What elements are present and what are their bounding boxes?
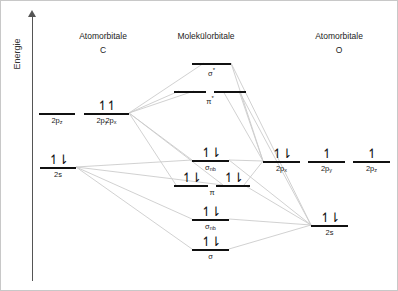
- column-header-oxygen: Atomorbitale O: [289, 30, 389, 56]
- level-bar: [311, 225, 348, 227]
- level-label: σ: [192, 252, 229, 261]
- level-bar: [192, 219, 229, 221]
- level-label: σ*: [192, 66, 231, 78]
- column-header-carbon: Atomorbitale C: [48, 30, 158, 56]
- column-header-oxygen-atom: O: [289, 44, 389, 56]
- column-header-mo-title: Molekülorbitale: [177, 31, 234, 41]
- electron-occupancy: ↿⇂: [192, 146, 229, 159]
- electron-occupancy: ↿⇂: [311, 211, 348, 224]
- level-label-sub: y: [329, 167, 332, 173]
- level-label: 2px: [263, 164, 300, 174]
- level-label-text: σ: [208, 252, 213, 261]
- level-bar: [353, 161, 390, 163]
- level-label-text: 2p: [105, 116, 113, 125]
- level-bar: [40, 167, 76, 169]
- level-label-sub: nb: [210, 166, 216, 172]
- electron-occupancy: ↿⇂: [263, 147, 300, 160]
- level-label: 2px: [93, 116, 129, 126]
- level-label: σnb: [192, 222, 229, 232]
- column-header-mo: Molekülorbitale: [151, 30, 261, 42]
- energy-axis-line: [32, 15, 33, 281]
- level-bar: [263, 161, 300, 163]
- level-bar: [308, 161, 345, 163]
- level-bar: [192, 160, 229, 162]
- level-label-sub: x: [114, 119, 117, 125]
- level-label: π: [192, 188, 232, 197]
- level-label-text: π: [209, 188, 214, 197]
- level-label: 2s: [311, 228, 348, 237]
- electron-occupancy: ↿⇂: [174, 171, 208, 184]
- mo-diagram-figure: Energie Atomorbitale C Molekülorbitale A…: [0, 0, 398, 291]
- level-bar: [174, 185, 208, 187]
- level-bar: [214, 91, 246, 93]
- energy-axis-label: Energie: [12, 24, 22, 84]
- level-bar: [174, 91, 206, 93]
- electron-occupancy: ↿: [93, 99, 129, 112]
- level-label-text: 2p: [51, 116, 59, 125]
- level-label-sup: *: [213, 67, 215, 73]
- level-label: 2pz: [39, 116, 75, 126]
- column-header-oxygen-title: Atomorbitale: [315, 31, 363, 41]
- level-bar: [192, 63, 231, 65]
- level-label-sub: z: [374, 167, 377, 173]
- level-label-sup: *: [211, 95, 213, 101]
- electron-occupancy: ↿: [308, 147, 345, 160]
- level-label-sub: x: [284, 167, 287, 173]
- level-label: 2s: [40, 170, 76, 179]
- level-label-text: 2s: [326, 228, 334, 237]
- electron-occupancy: ↿⇂: [192, 235, 229, 248]
- level-bar: [216, 185, 250, 187]
- level-label: 2pz: [353, 164, 390, 174]
- level-label: π*: [190, 94, 230, 106]
- electron-occupancy: ↿⇂: [192, 205, 229, 218]
- level-label-sub: nb: [210, 225, 216, 231]
- column-header-carbon-title: Atomorbitale: [79, 31, 127, 41]
- level-bar: [39, 113, 75, 115]
- level-label-sub: z: [60, 119, 63, 125]
- level-label-text: 2s: [54, 170, 62, 179]
- electron-occupancy: ↿⇂: [40, 153, 76, 166]
- electron-occupancy: ↿: [353, 147, 390, 160]
- level-bar: [192, 249, 229, 251]
- level-bar: [93, 113, 129, 115]
- column-header-carbon-atom: C: [48, 44, 158, 56]
- level-label: 2py: [308, 164, 345, 174]
- electron-occupancy: ↿⇂: [216, 171, 250, 184]
